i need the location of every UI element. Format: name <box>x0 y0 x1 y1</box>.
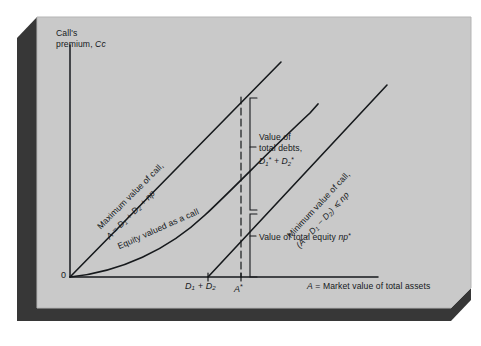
y-axis-label-symbol: Cc <box>95 39 106 49</box>
y-axis-label-line1: Call's <box>56 28 77 39</box>
annotation-total-equity: Value of total equity np* <box>259 230 351 243</box>
x-tick-label-d1-d2: D1 + D2 <box>185 281 216 293</box>
y-axis-label-prefix: premium, <box>56 39 95 49</box>
x-axis-label-symbol: A <box>307 281 313 291</box>
x-tick-label-a-star: A* <box>234 281 243 295</box>
figure-canvas: Call's premium, Cc 0 D1 + D2 A* A = Mark… <box>0 0 481 346</box>
annotation-total-debts-line1: Value of <box>259 132 291 143</box>
annotation-total-debts-line3: D1* + D2* <box>259 154 294 170</box>
annotation-total-debts-line2: total debts, <box>259 143 302 154</box>
x-axis-label-text: = Market value of total assets <box>315 281 430 291</box>
origin-label: 0 <box>61 270 66 281</box>
x-axis-label: A = Market value of total assets <box>307 281 430 292</box>
y-axis-label-line2: premium, Cc <box>56 39 106 50</box>
